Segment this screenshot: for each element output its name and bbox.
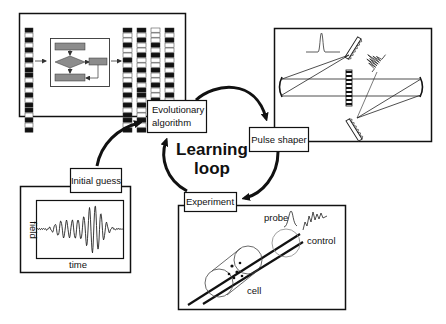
cell-label: cell (247, 285, 261, 296)
arrow-pulse-to-experiment (245, 152, 278, 198)
svg-text:Experiment: Experiment (186, 196, 234, 207)
node-pulse-shaper[interactable]: Pulse shaper (250, 128, 309, 152)
control-label: control (307, 235, 336, 246)
flowchart-icon (51, 39, 110, 87)
spatial-light-modulator-icon (346, 70, 352, 106)
field-axis-label: field (28, 221, 39, 238)
pulse-shaper-panel (275, 29, 432, 142)
node-initial-guess[interactable]: Initial guess (71, 169, 122, 193)
experiment-panel: probe control cell (179, 206, 346, 310)
node-evolutionary-algorithm[interactable]: Evolutionary algorithm (148, 101, 207, 133)
center-label-line1: Learning (176, 140, 248, 159)
svg-text:Initial guess: Initial guess (71, 175, 121, 186)
arrow-initial-to-evo (97, 123, 139, 166)
time-axis-label: time (69, 259, 87, 270)
input-chromosome (25, 28, 33, 132)
svg-text:Pulse shaper: Pulse shaper (251, 134, 306, 145)
node-experiment[interactable]: Experiment (185, 193, 237, 212)
probe-label: probe (264, 212, 288, 223)
svg-text:Evolutionary: Evolutionary (152, 104, 205, 115)
svg-text:algorithm: algorithm (152, 117, 191, 128)
center-label-line2: loop (194, 159, 230, 178)
initial-guess-panel: time field (21, 187, 131, 273)
learning-loop-diagram: time field probe control cell (0, 0, 446, 324)
